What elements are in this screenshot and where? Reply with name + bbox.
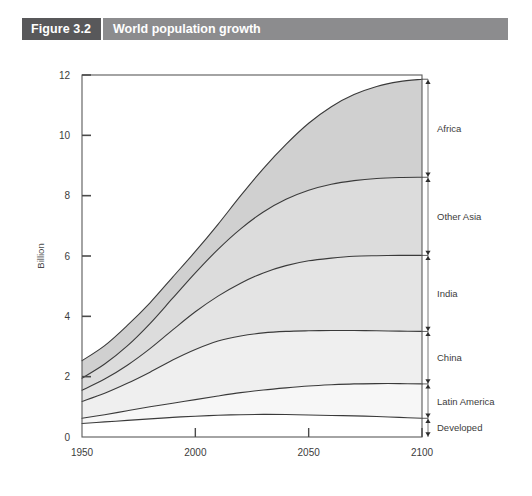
bracket-arrow-down [425, 379, 430, 383]
figure-container: Figure 3.2 World population growth 02468… [0, 0, 532, 496]
y-tick-label: 0 [64, 432, 70, 443]
series-label-africa: Africa [437, 123, 462, 134]
chart-area: 024681012 1950200020502100 AfricaOther A… [0, 44, 532, 474]
series-label-latin-america: Latin America [437, 396, 495, 407]
bracket-arrow-down [425, 414, 430, 418]
series-label-china: China [437, 352, 463, 363]
y-tick-label: 4 [64, 311, 70, 322]
bracket-arrow-up [425, 332, 430, 336]
y-tick-label: 6 [64, 251, 70, 262]
bracket-arrow-up [425, 384, 430, 388]
series-label-india: India [437, 288, 458, 299]
bracket-arrow-down [425, 327, 430, 331]
bracket-arrow-down [425, 173, 430, 177]
x-tick-label: 1950 [71, 447, 94, 458]
figure-header: Figure 3.2 World population growth [22, 18, 508, 40]
y-axis-title-text: Billion [35, 243, 46, 268]
bracket-arrow-up [425, 178, 430, 182]
y-axis-title: Billion [35, 243, 46, 268]
series-brackets [422, 79, 431, 437]
y-tick-label: 12 [59, 70, 71, 81]
series-labels: AfricaOther AsiaIndiaChinaLatin AmericaD… [437, 123, 495, 433]
x-tick-label: 2000 [184, 447, 207, 458]
y-tick-label: 10 [59, 130, 71, 141]
population-growth-chart: 024681012 1950200020502100 AfricaOther A… [0, 44, 532, 474]
series-label-other-asia: Other Asia [437, 211, 482, 222]
y-tick-label: 2 [64, 371, 70, 382]
x-tick-label: 2100 [411, 447, 434, 458]
bracket-arrow-down [425, 432, 430, 436]
figure-number-badge: Figure 3.2 [22, 18, 101, 40]
y-tick-label: 8 [64, 190, 70, 201]
bracket-arrow-up [425, 419, 430, 423]
bracket-arrow-down [425, 251, 430, 255]
bracket-arrow-up [425, 80, 430, 84]
x-tick-label: 2050 [298, 447, 321, 458]
figure-title: World population growth [103, 18, 508, 40]
bracket-arrow-up [425, 256, 430, 260]
series-label-developed: Developed [437, 422, 482, 433]
